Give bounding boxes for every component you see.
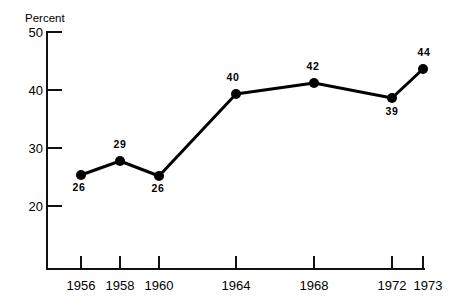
data-point-1964	[231, 89, 241, 99]
data-label-1972: 39	[386, 105, 399, 117]
data-point-1958	[115, 156, 125, 166]
data-point-1972	[387, 93, 397, 103]
x-tick-label-1964: 1964	[222, 278, 251, 293]
data-label-1958: 29	[114, 138, 127, 150]
data-label-1956: 26	[73, 181, 86, 193]
data-label-1968: 42	[307, 60, 320, 72]
y-tick-label-30: 30	[29, 141, 43, 156]
x-tick-label-1960: 1960	[145, 278, 174, 293]
data-point-1956	[76, 170, 86, 180]
data-point-1968	[309, 78, 319, 88]
data-point-1973	[418, 64, 428, 74]
y-tick-label-50: 50	[29, 25, 43, 40]
data-label-1960: 26	[152, 182, 165, 194]
data-label-1964: 40	[227, 71, 240, 83]
chart-canvas: Percent 50 40 30 20 1956 1958 1960 1964 …	[0, 0, 459, 307]
series-line-percent	[81, 69, 423, 176]
x-tick-label-1958: 1958	[106, 278, 135, 293]
line-chart: Percent 50 40 30 20 1956 1958 1960 1964 …	[0, 0, 459, 307]
x-tick-label-1968: 1968	[300, 278, 329, 293]
x-tick-label-1973: 1973	[414, 278, 443, 293]
x-tick-label-1956: 1956	[67, 278, 96, 293]
data-label-1973: 44	[418, 46, 431, 58]
y-tick-label-20: 20	[29, 199, 43, 214]
y-tick-label-40: 40	[29, 83, 43, 98]
data-point-1960	[154, 171, 164, 181]
y-axis-title: Percent	[25, 12, 65, 24]
x-tick-label-1972: 1972	[378, 278, 407, 293]
